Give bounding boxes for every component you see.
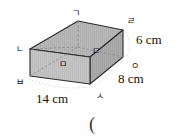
dimension-label-width: 14 cm <box>36 92 68 105</box>
cuboid-figure: ㄱ ㄴ ㄷ ㄹ ㅁ ㅂ ㅅ ㅇ 6 cm 8 cm 14 cm ( <box>0 0 196 140</box>
height-guide <box>126 32 130 58</box>
vertex-label-mieum: ㅁ <box>59 60 67 69</box>
vertex-label-nieun: ㄴ <box>16 45 24 54</box>
vertex-label-ieung: ㅇ <box>131 62 139 71</box>
vertex-label-rieul: ㄹ <box>127 17 135 26</box>
cuboid-svg <box>0 0 196 140</box>
answer-open-paren: ( <box>89 114 95 133</box>
dimension-label-height: 6 cm <box>136 33 162 46</box>
vertex-label-bieup: ㅂ <box>16 78 24 87</box>
vertex-label-siot: ㅅ <box>96 92 104 101</box>
vertex-label-digeut: ㄷ <box>92 47 100 56</box>
vertex-label-giyeok: ㄱ <box>72 9 80 18</box>
dimension-label-depth: 8 cm <box>118 72 144 85</box>
